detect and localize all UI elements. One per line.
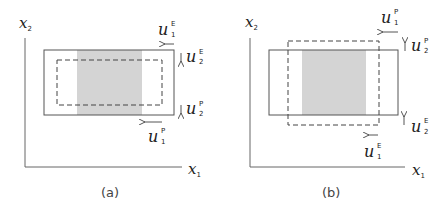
u2-top-sup: P	[424, 37, 428, 45]
figure-canvas: x2 x1 u E 1 u E 2 u P 2 u P 1 (a) x2 x1	[0, 0, 443, 213]
u1-top-sub: 1	[171, 31, 175, 39]
x-axis-label: x1	[412, 161, 425, 180]
u2-bottom-sub: 2	[424, 128, 428, 136]
x-axis-label: x1	[188, 160, 201, 179]
u2-bottom-sub: 2	[199, 110, 203, 118]
panel-caption: (a)	[101, 185, 119, 200]
u1-bottom-sup: E	[377, 142, 381, 150]
panel-b: x2 x1 u P 1 u P 2 u E 2 u E 1 (b)	[245, 8, 428, 200]
u2-top-label: u	[411, 36, 421, 55]
u1-bottom-label: u	[364, 142, 374, 161]
shaded-region	[302, 50, 366, 115]
y-axis-label: x2	[19, 14, 32, 33]
panel-caption: (b)	[322, 185, 340, 200]
u1-top-sup: P	[394, 8, 398, 16]
u2-top-sub: 2	[424, 47, 428, 55]
u1-bottom-sup: P	[161, 127, 165, 135]
u1-bottom-sub: 1	[377, 153, 381, 161]
u2-top-sub: 2	[199, 58, 203, 66]
u1-bottom-sub: 1	[161, 138, 165, 146]
u2-bottom-sup: P	[199, 100, 203, 108]
u2-bottom-label: u	[186, 99, 196, 118]
panel-a: x2 x1 u E 1 u E 2 u P 2 u P 1 (a)	[19, 14, 203, 200]
u2-top-label: u	[186, 47, 196, 66]
u1-top-sup: E	[171, 20, 175, 28]
u1-top-sub: 1	[394, 19, 398, 27]
u1-top-label: u	[158, 20, 168, 39]
u1-top-label: u	[381, 8, 391, 27]
y-axis-label: x2	[245, 13, 258, 32]
u2-bottom-sup: E	[424, 117, 428, 125]
u1-bottom-label: u	[148, 127, 158, 146]
u2-top-sup: E	[199, 48, 203, 56]
u2-bottom-label: u	[411, 117, 421, 136]
